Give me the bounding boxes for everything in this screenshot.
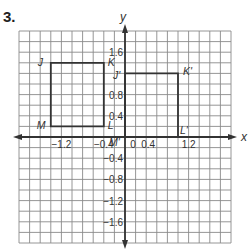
x-tick-label: 0 xyxy=(130,139,136,150)
x-tick-label: 1.2 xyxy=(182,139,196,150)
y-tick-label: 0.8 xyxy=(109,90,123,101)
vertex-label: J' xyxy=(112,69,121,81)
y-axis-down-arrow-icon xyxy=(122,240,128,249)
vertex-label: J xyxy=(37,56,44,68)
x-axis-left-arrow-icon xyxy=(13,134,22,140)
vertex-label: L' xyxy=(180,124,189,136)
x-tick-label: 0.4 xyxy=(141,139,155,150)
vertex-label: M' xyxy=(109,136,121,148)
labels: xy−1.2−0.400.41.21.60.80.4−0.4−0.8−1.2−1… xyxy=(37,10,248,228)
y-tick-label: −0.8 xyxy=(103,174,123,185)
x-axis-right-arrow-icon xyxy=(228,134,237,140)
vertex-label: K' xyxy=(183,65,193,77)
vertex-label: M xyxy=(37,119,46,131)
vertex-label: L xyxy=(108,119,114,131)
y-axis-label: y xyxy=(119,10,127,24)
y-axis-up-arrow-icon xyxy=(122,24,128,33)
x-tick-label: −1.2 xyxy=(52,139,72,150)
vertex-label: K xyxy=(108,56,116,68)
coordinate-plane: xy−1.2−0.400.41.21.60.80.4−0.4−0.8−1.2−1… xyxy=(0,0,249,251)
x-axis-label: x xyxy=(240,130,248,144)
y-tick-label: −0.4 xyxy=(103,153,123,164)
y-tick-label: −1.2 xyxy=(103,196,123,207)
y-tick-label: −1.6 xyxy=(103,217,123,228)
